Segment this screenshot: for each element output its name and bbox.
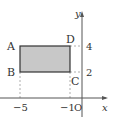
rectangle-abcd — [20, 46, 70, 72]
tick-label-y4: 4 — [86, 41, 92, 52]
tick-label-x-5: −5 — [13, 102, 28, 113]
point-label-c: C — [71, 75, 79, 88]
coordinate-diagram: A B C D 4 2 −5 −1 O x y — [0, 0, 118, 134]
x-axis-arrow-icon — [102, 96, 108, 100]
tick-label-y2: 2 — [86, 67, 92, 78]
point-label-b: B — [7, 66, 15, 79]
point-label-a: A — [6, 40, 16, 53]
origin-label: O — [74, 102, 82, 113]
x-axis-label: x — [102, 102, 108, 113]
y-axis-label: y — [74, 8, 81, 19]
tick-label-x-1: −1 — [60, 102, 75, 113]
point-label-d: D — [66, 33, 75, 46]
